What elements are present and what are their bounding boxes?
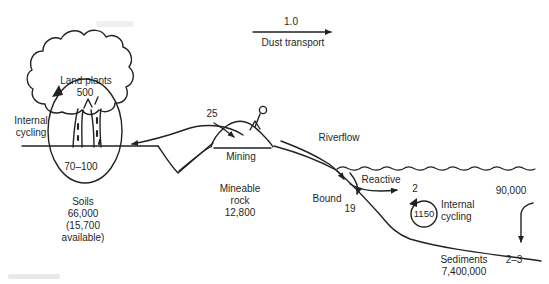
uptake-flux-value: 70–100 bbox=[64, 161, 97, 173]
reactive-label: Reactive bbox=[362, 174, 401, 186]
scan-artifact bbox=[96, 21, 134, 27]
mining-derrick-icon bbox=[250, 106, 267, 130]
ocean-internal-cycling-label: Internal cycling bbox=[441, 199, 474, 223]
phosphorus-cycle-diagram: 1.0 Dust transport Land plants 500 Inter… bbox=[0, 0, 549, 284]
riverflow-arrow bbox=[281, 141, 344, 179]
land-internal-cycling-label: Internal cycling bbox=[14, 115, 47, 139]
land-plants-stock: 500 bbox=[77, 87, 94, 99]
burial-flux-arrow bbox=[521, 203, 533, 242]
land-plants-label: Land plants bbox=[60, 75, 112, 87]
sediments-label: Sediments 7,400,000 bbox=[440, 254, 487, 278]
mining-to-land-arrow bbox=[132, 126, 243, 144]
dust-flux-value: 1.0 bbox=[284, 16, 298, 28]
ocean-surface-waves bbox=[337, 167, 535, 170]
bound-value: 19 bbox=[344, 203, 355, 215]
mining-flux-value: 25 bbox=[206, 108, 217, 120]
scan-artifact bbox=[8, 274, 60, 279]
ocean-internal-cycling-arrowhead-icon bbox=[409, 198, 417, 207]
ocean-surface-stock: 90,000 bbox=[496, 185, 527, 197]
tree-canopy bbox=[27, 30, 133, 114]
riverflow-label: Riverflow bbox=[318, 132, 359, 144]
mineable-rock-label: Mineable rock 12,800 bbox=[220, 183, 261, 219]
dust-flux-label: Dust transport bbox=[262, 37, 325, 49]
soils-label: Soils 66,000 (15,700 available) bbox=[62, 196, 105, 244]
mining-label: Mining bbox=[226, 151, 255, 163]
ocean-internal-cycling-value: 1150 bbox=[414, 208, 434, 220]
reactive-value: 2 bbox=[412, 183, 418, 195]
bound-label: Bound bbox=[313, 193, 342, 205]
river-valley bbox=[158, 143, 213, 173]
burial-flux-value: 2–3 bbox=[506, 254, 523, 266]
